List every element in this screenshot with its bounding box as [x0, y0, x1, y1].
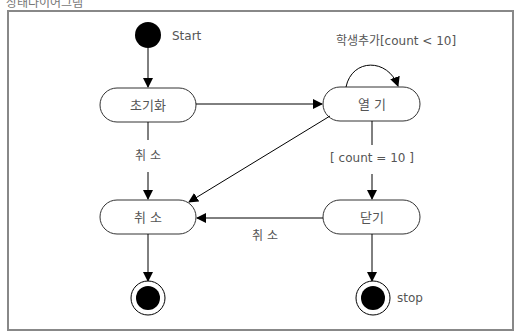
state-open: 열 기	[323, 87, 420, 121]
state-close-label: 닫기	[360, 210, 384, 225]
end-node-2-icon	[356, 281, 390, 315]
stop-label: stop	[397, 291, 423, 305]
transition-open-self	[346, 65, 398, 87]
self-loop-guard-label: 학생추가[count < 10]	[336, 34, 456, 48]
state-diagram: Start 초기화 열 기 학생추가[count < 10] 취 소 [ cou…	[0, 0, 520, 336]
start-node-icon	[135, 22, 161, 48]
init-cancel-label: 취 소	[135, 149, 161, 163]
open-close-guard-label: [ count = 10 ]	[330, 151, 414, 165]
close-cancel-label: 취 소	[252, 229, 278, 243]
start-label: Start	[172, 29, 202, 43]
transition-open-cancel	[189, 116, 330, 202]
state-init-label: 초기화	[130, 98, 166, 113]
state-init: 초기화	[100, 88, 196, 122]
state-cancel: 취 소	[100, 200, 196, 234]
state-open-label: 열 기	[358, 97, 386, 112]
end-node-1-icon	[131, 281, 165, 315]
state-cancel-label: 취 소	[134, 210, 162, 225]
diagram-frame	[8, 11, 513, 330]
state-close: 닫기	[323, 200, 420, 234]
